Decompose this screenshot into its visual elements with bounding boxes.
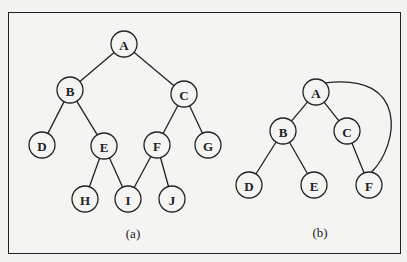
panel-b-tree-with-arc: ABCDEF(b) bbox=[236, 79, 391, 240]
node-F: F bbox=[356, 172, 382, 198]
edge-A-B bbox=[80, 52, 114, 81]
node-C: C bbox=[334, 118, 360, 144]
node-A: A bbox=[303, 79, 329, 105]
node-label: C bbox=[179, 88, 188, 103]
edge-B-E bbox=[77, 101, 98, 135]
node-E: E bbox=[301, 172, 327, 198]
node-C: C bbox=[171, 81, 197, 107]
node-label: A bbox=[119, 38, 129, 53]
node-D: D bbox=[236, 172, 262, 198]
node-H: H bbox=[72, 186, 98, 212]
node-label: A bbox=[311, 86, 321, 101]
node-label: D bbox=[37, 139, 46, 154]
tree-diagram: ABCDEFGHIJ(a) ABCDEF(b) bbox=[0, 0, 407, 262]
edge-C-F bbox=[163, 105, 178, 133]
node-F: F bbox=[144, 132, 170, 158]
edge-A-C bbox=[134, 52, 174, 85]
node-label: F bbox=[153, 139, 161, 154]
node-label: B bbox=[279, 125, 288, 140]
edge-B-D bbox=[48, 102, 64, 134]
node-label: H bbox=[80, 193, 90, 208]
edge-C-F bbox=[352, 143, 364, 173]
node-label: F bbox=[365, 179, 373, 194]
node-label: E bbox=[100, 140, 109, 155]
node-A: A bbox=[111, 31, 137, 57]
node-label: I bbox=[125, 193, 130, 208]
edge-C-G bbox=[190, 106, 203, 133]
edge-F-I bbox=[134, 156, 151, 187]
edge-B-E bbox=[289, 142, 307, 173]
node-label: C bbox=[342, 125, 351, 140]
edge-A-C bbox=[324, 102, 339, 121]
node-label: E bbox=[310, 179, 319, 194]
node-label: J bbox=[169, 193, 176, 208]
panel-caption: (a) bbox=[126, 226, 140, 241]
edge-A-B bbox=[291, 102, 307, 121]
node-label: B bbox=[66, 84, 75, 99]
edge-E-H bbox=[89, 158, 99, 187]
node-D: D bbox=[29, 132, 55, 158]
node-label: D bbox=[244, 179, 253, 194]
node-B: B bbox=[57, 77, 83, 103]
edge-B-D bbox=[256, 142, 276, 174]
node-label: G bbox=[203, 139, 213, 154]
panel-caption: (b) bbox=[312, 225, 327, 240]
node-J: J bbox=[159, 186, 185, 212]
node-I: I bbox=[115, 186, 141, 212]
edge-E-I bbox=[109, 158, 122, 187]
node-E: E bbox=[91, 133, 117, 159]
node-G: G bbox=[195, 132, 221, 158]
node-B: B bbox=[270, 118, 296, 144]
edge-F-J bbox=[160, 158, 168, 187]
panel-a-binary-tree: ABCDEFGHIJ(a) bbox=[29, 31, 221, 241]
